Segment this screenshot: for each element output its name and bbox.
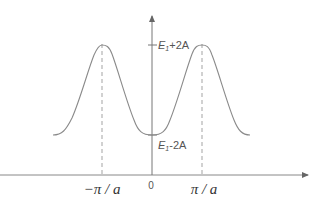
label-max-energy: E1+2A	[158, 39, 190, 52]
band-diagram: E1+2A E1-2A −π / a 0 π / a	[0, 0, 325, 204]
x-label-pi-over-a: π / a	[191, 181, 218, 197]
x-label-neg-pi-over-a: −π / a	[84, 181, 121, 197]
label-min-energy: E1-2A	[158, 139, 187, 152]
x-label-origin: 0	[148, 180, 154, 191]
